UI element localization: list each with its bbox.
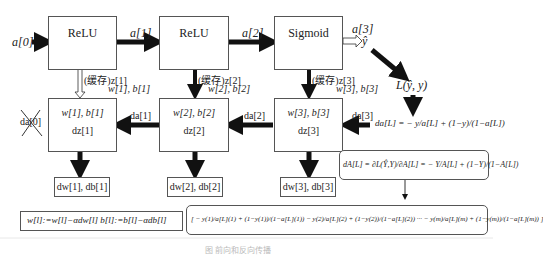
formula-vectorized: [ − y(1)/a[L](1) + (1−y(1))/(1−a[L](1)) … [191, 215, 543, 223]
backward-layer-1: w[1], b[1] dz[1] [48, 98, 117, 152]
grads-box-3: dw[3], db[3] [280, 177, 336, 197]
yhat: ŷ [362, 34, 367, 49]
cache-params-2: w[2], b[2] [208, 83, 250, 94]
backward-layer-3: w[3], b[3] dz[3] [274, 98, 343, 152]
cache-params-1: w[1], b[1] [108, 83, 150, 94]
grads-2: dw[2], db[2] [168, 181, 222, 192]
figure-caption: 图 前向和反向传播 [205, 244, 271, 255]
formula-dAL-box: dA[L] = ∂L(Ŷ,Y)/∂A[L] = − Y/A[L] + (1−Y)… [339, 150, 489, 180]
formula-daL: da[L] = − y/a[L] + (1−y)/(1−a[L]) [375, 118, 505, 128]
grads-1: dw[1], db[1] [55, 181, 109, 192]
dz3: dz[3] [275, 125, 342, 136]
backward-layer-2: w[2], b[2] dz[2] [159, 98, 229, 152]
forward-layer-3: Sigmoid [274, 16, 343, 70]
activation-relu-1: ReLU [49, 26, 116, 41]
da1-label: da[1] [130, 110, 151, 121]
activation-relu-2: ReLU [160, 26, 228, 41]
formula-dAL: dA[L] = ∂L(Ŷ,Y)/∂A[L] = − Y/A[L] + (1−Y)… [343, 160, 518, 169]
update-rule-box: w[l]:=w[l]−αdw[l] b[l]:=b[l]−αdb[l] [20, 211, 183, 231]
grads-box-2: dw[2], db[2] [167, 177, 223, 197]
loss-function: L(ŷ, y) [396, 78, 427, 93]
input-a0: a[0] [12, 35, 33, 50]
dz1: dz[1] [49, 125, 116, 136]
formula-vectorized-box: [ − y(1)/a[L](1) + (1−y(1))/(1−a[L](1)) … [186, 205, 488, 235]
params-w3b3: w[3], b[3] [275, 107, 342, 118]
output-a2: a[2] [242, 26, 263, 41]
da2-label: da[2] [244, 110, 265, 121]
forward-layer-2: ReLU [159, 16, 229, 70]
forward-layer-1: ReLU [48, 16, 117, 70]
update-rule: w[l]:=w[l]−αdw[l] b[l]:=b[l]−αdb[l] [27, 215, 167, 225]
activation-sigmoid: Sigmoid [275, 26, 342, 41]
arrow-to-loss [372, 50, 402, 75]
da0-crossed: da[0] [20, 116, 41, 127]
output-a1: a[1] [130, 26, 151, 41]
cache-params-3: w[3], b[3] [336, 83, 378, 94]
params-w2b2: w[2], b[2] [160, 107, 228, 118]
da3-label: da[3] [352, 110, 373, 121]
dz2: dz[2] [160, 125, 228, 136]
grads-box-1: dw[1], db[1] [54, 177, 110, 197]
grads-3: dw[3], db[3] [281, 181, 335, 192]
params-w1b1: w[1], b[1] [49, 107, 116, 118]
